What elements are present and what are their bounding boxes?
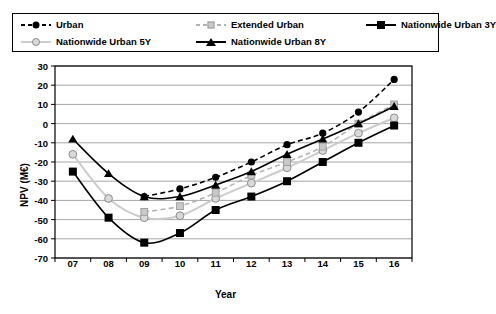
data-point (247, 193, 255, 201)
x-tick-13: 13 (282, 258, 293, 269)
gridlines (55, 66, 412, 258)
x-axis-label: Year (0, 289, 451, 300)
data-point (247, 167, 256, 175)
legend-item-urban[interactable]: Urban (21, 16, 83, 33)
data-point (390, 122, 398, 130)
y-tick-neg60: -60 (34, 233, 48, 244)
data-point (212, 174, 219, 181)
x-tick-14: 14 (317, 258, 328, 269)
data-point (319, 158, 327, 166)
plot-area-wrapper: NPV (M€) 3020100-10-20-30-40-50-60-70 07… (0, 57, 451, 314)
data-point (354, 139, 362, 147)
legend-marker-extended-urban-icon (196, 19, 226, 31)
data-point (355, 129, 363, 137)
y-tick-neg30: -30 (34, 176, 48, 187)
data-point (141, 193, 148, 200)
data-point (319, 143, 326, 150)
data-point (141, 209, 148, 216)
data-point (176, 212, 184, 220)
series-nationwide-urban-8y (68, 102, 399, 200)
legend-label: Extended Urban (231, 20, 304, 30)
legend-label: Urban (56, 20, 83, 30)
y-tick-20: 20 (37, 80, 48, 91)
legend-marker-nationwide-urban-3y-icon (366, 19, 396, 31)
data-point (177, 203, 184, 210)
data-point (176, 229, 184, 237)
y-tick-neg50: -50 (34, 214, 48, 225)
x-axis-tick-labels: 07080910111213141516 (0, 258, 451, 278)
legend-item-nationwide-urban-8y[interactable]: Nationwide Urban 8Y (196, 33, 326, 50)
x-tick-09: 09 (139, 258, 150, 269)
legend-marker-urban-icon (21, 19, 51, 31)
data-point (69, 150, 77, 158)
legend-item-nationwide-urban-5y[interactable]: Nationwide Urban 5Y (21, 33, 151, 50)
y-tick-30: 30 (37, 61, 48, 72)
x-tick-08: 08 (103, 258, 114, 269)
data-point (282, 150, 291, 158)
y-tick-neg40: -40 (34, 195, 48, 206)
legend-item-extended-urban[interactable]: Extended Urban (196, 16, 304, 33)
data-point (283, 141, 290, 148)
x-tick-12: 12 (246, 258, 257, 269)
data-point (284, 159, 291, 166)
x-tick-15: 15 (353, 258, 364, 269)
legend-label: Nationwide Urban 5Y (56, 37, 151, 47)
y-tick-0: 0 (43, 118, 48, 129)
data-point (248, 158, 255, 165)
data-point (105, 195, 113, 203)
legend-label: Nationwide Urban 8Y (231, 37, 326, 47)
chart-legend: UrbanExtended UrbanNationwide Urban 3Y N… (12, 13, 439, 52)
x-tick-10: 10 (175, 258, 186, 269)
y-tick-10: 10 (37, 99, 48, 110)
data-point (105, 214, 113, 222)
data-point (319, 130, 326, 137)
legend-label: Nationwide Urban 3Y (401, 20, 496, 30)
data-point (140, 239, 148, 247)
data-point (247, 179, 255, 187)
legend-item-nationwide-urban-3y[interactable]: Nationwide Urban 3Y (366, 16, 496, 33)
series-line (144, 79, 394, 196)
series-line (73, 118, 394, 219)
data-point (212, 189, 219, 196)
data-point (69, 168, 77, 176)
y-tick-neg10: -10 (34, 137, 48, 148)
x-tick-16: 16 (389, 258, 400, 269)
data-point (390, 114, 398, 122)
data-point (68, 135, 77, 143)
legend-marker-nationwide-urban-8y-icon (196, 36, 226, 48)
data-point (212, 206, 220, 214)
x-tick-07: 07 (68, 258, 79, 269)
data-point (176, 185, 183, 192)
x-tick-11: 11 (211, 258, 221, 269)
data-point (283, 177, 291, 185)
data-point (355, 108, 362, 115)
y-tick-neg20: -20 (34, 157, 48, 168)
data-point (391, 76, 398, 83)
legend-marker-nationwide-urban-5y-icon (21, 36, 51, 48)
